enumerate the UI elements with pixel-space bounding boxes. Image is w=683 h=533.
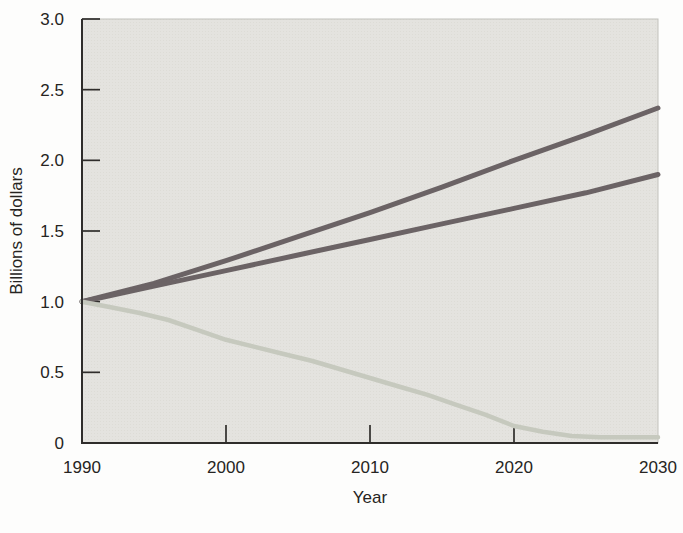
x-tick-label: 2010 — [351, 458, 389, 477]
line-chart-figure: 3.02.52.01.51.00.5019902000201020202030 … — [0, 0, 683, 533]
y-tick-label: 1.5 — [40, 222, 64, 241]
chart-svg: 3.02.52.01.51.00.5019902000201020202030 … — [0, 0, 683, 533]
x-tick-label: 2020 — [495, 458, 533, 477]
x-tick-label: 2000 — [207, 458, 245, 477]
y-tick-label: 0.5 — [40, 363, 64, 382]
x-axis-title: Year — [353, 488, 388, 507]
y-tick-label: 1.0 — [40, 293, 64, 312]
y-axis-title: Billions of dollars — [7, 167, 26, 295]
x-tick-label: 2030 — [639, 458, 677, 477]
x-tick-label: 1990 — [63, 458, 101, 477]
y-tick-label: 2.0 — [40, 151, 64, 170]
y-tick-label: 3.0 — [40, 10, 64, 29]
y-tick-label: 2.5 — [40, 81, 64, 100]
y-tick-label: 0 — [55, 434, 64, 453]
